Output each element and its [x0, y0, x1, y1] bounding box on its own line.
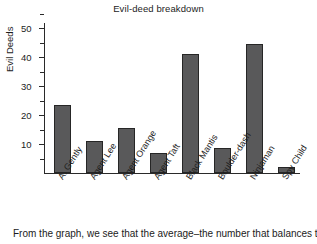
- chart-title: Evil-deed breakdown: [0, 3, 317, 14]
- y-tick-label: 30: [21, 81, 32, 92]
- y-tick-minor: [40, 14, 45, 15]
- y-axis-title: Evil Deeds: [4, 27, 15, 72]
- chart-figure: Evil-deed breakdown Evil Deeds 102030405…: [0, 0, 317, 244]
- caption-text: From the graph, we see that the average–…: [13, 228, 313, 239]
- y-tick-label: 20: [21, 110, 32, 121]
- y-tick-label: 40: [21, 52, 32, 63]
- x-axis-labels: A. GentlyAgent LeeAgent OrangeAgent Taft…: [44, 176, 314, 226]
- bar: [246, 44, 263, 173]
- y-tick-label: 50: [21, 23, 32, 34]
- y-tick-label: 10: [21, 139, 32, 150]
